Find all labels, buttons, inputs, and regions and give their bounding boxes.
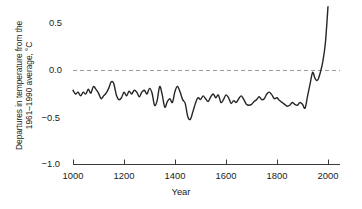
x-axis [73,160,340,165]
temperature-series-line [73,7,328,120]
plot-area [0,0,362,209]
temperature-anomaly-chart: Departures in temperature from the 1961–… [0,0,362,209]
